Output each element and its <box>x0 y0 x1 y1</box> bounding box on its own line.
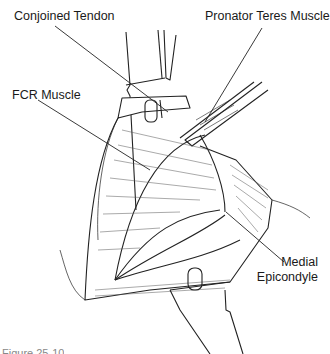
lower-retractor-left-edge <box>170 290 210 354</box>
figure-caption: Figure 25-10 <box>2 346 64 354</box>
label-medial-line1: Medial <box>262 255 318 269</box>
label-fcr-muscle: FCR Muscle <box>12 88 81 102</box>
label-pronator-teres-muscle: Pronator Teres Muscle <box>205 9 330 23</box>
label-conjoined-tendon: Conjoined Tendon <box>14 9 115 23</box>
elbow-dissection-drawing <box>0 0 330 354</box>
label-medial-epicondyle-line2: Epicondyle <box>252 270 318 284</box>
surgical-illustration: Conjoined Tendon Pronator Teres Muscle F… <box>0 0 330 354</box>
upper-retractor-left-edge <box>126 32 136 210</box>
